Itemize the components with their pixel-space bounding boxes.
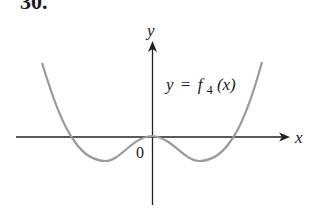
- function-label-var: y: [164, 75, 174, 94]
- y-axis-label: y: [145, 21, 155, 40]
- function-label-f: f: [198, 75, 205, 94]
- function-label-subscript: 4: [207, 83, 213, 97]
- function-label-arg: (x): [217, 75, 236, 94]
- graph: y x 0 y = f 4 (x): [0, 0, 323, 214]
- origin-label: 0: [136, 144, 144, 161]
- function-label: y = f 4 (x): [164, 75, 236, 98]
- function-label-eq: =: [181, 75, 191, 94]
- x-axis-label: x: [294, 128, 303, 147]
